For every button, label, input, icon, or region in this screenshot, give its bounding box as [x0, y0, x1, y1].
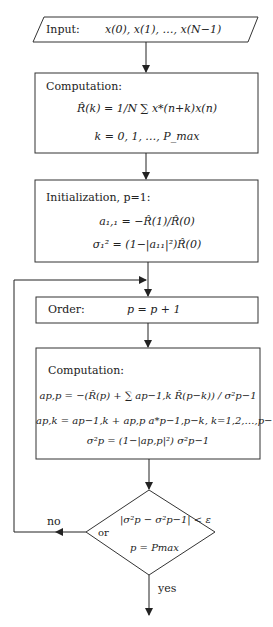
variance-update-eq: σ²p = (1−|ap,p|²) σ²p−1 [36, 435, 260, 446]
yes-branch-label: yes [158, 582, 176, 595]
order-increment: p = p + 1 [127, 303, 181, 316]
input-label: Input: [46, 23, 80, 36]
coefficient-update-eq: ap,k = ap−1,k + ap,p a*p−1,p−k, k=1,2,…,… [36, 415, 260, 426]
no-branch-label: no [47, 515, 61, 528]
init-variance-eq: σ₁² = (1−|a₁₁|²)R̂(0) [36, 238, 258, 251]
levinson-durbin-flowchart: Input: x(0), x(1), …, x(N−1) Computation… [0, 0, 273, 627]
decision-or: or [98, 527, 109, 538]
autocorrelation-range: k = 0, 1, …, P_max [36, 130, 258, 143]
computation2-label: Computation: [48, 364, 124, 377]
decision-condition-max-order: p = Pmax [130, 542, 179, 553]
init-coefficient-eq: a₁,₁ = −R̂(1)/R̂(0) [36, 215, 258, 228]
autocorrelation-formula: R̂(k) = 1/N ∑ x*(n+k)x(n) [36, 102, 258, 115]
computation1-label: Computation: [46, 80, 122, 93]
reflection-coefficient-eq: ap,p = −(R̂(p) + ∑ ap−1,k R̂(p−k)) / σ²p… [36, 390, 260, 401]
decision-condition-convergence: |σ²p − σ²p−1| < ε [120, 514, 211, 525]
order-label: Order: [48, 303, 85, 316]
input-expression: x(0), x(1), …, x(N−1) [105, 23, 221, 36]
initialization-label: Initialization, p=1: [46, 191, 150, 204]
